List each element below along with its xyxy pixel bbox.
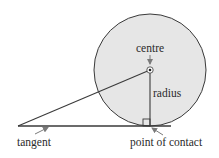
contact-arrow-icon [152, 128, 163, 135]
tangent-circle-diagram [0, 0, 219, 158]
point-of-contact-label: point of contact [130, 137, 202, 149]
tangent-label: tangent [17, 137, 51, 149]
centre-label: centre [136, 43, 164, 55]
radius-label: radius [153, 88, 181, 100]
centre-point-dot [149, 69, 152, 72]
tangent-arrow-icon [35, 128, 48, 135]
